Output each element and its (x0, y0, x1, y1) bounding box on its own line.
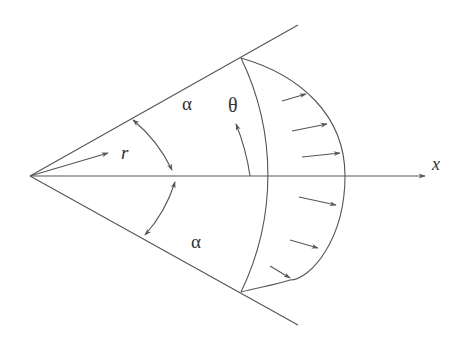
alpha-lower-label: α (191, 231, 201, 252)
wedge-lower-wall (30, 176, 298, 325)
velocity-vector (282, 94, 306, 101)
alpha-upper-label: α (182, 93, 192, 114)
velocity-vector (292, 124, 327, 131)
velocity-vector (302, 153, 340, 157)
velocity-vector (290, 240, 318, 248)
velocity-vector (299, 197, 336, 205)
radius-r-arrow (30, 153, 108, 176)
wedge-flow-diagram: α α θ r x (0, 0, 463, 338)
alpha-arc-lower (145, 182, 175, 235)
x-label: x (431, 154, 440, 174)
reference-arc (241, 58, 268, 292)
alpha-arc-upper (133, 120, 172, 170)
theta-label: θ (228, 94, 238, 116)
r-label: r (121, 142, 129, 163)
theta-arc-arrow (236, 124, 250, 176)
velocity-vectors (270, 94, 340, 278)
velocity-vector (270, 266, 290, 278)
velocity-profile-curve (241, 58, 345, 292)
